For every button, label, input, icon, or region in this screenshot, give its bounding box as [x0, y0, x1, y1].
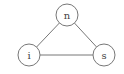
graph-diagram: nis [0, 0, 124, 74]
node-label: n [64, 10, 71, 21]
edge-n-i [37, 23, 60, 47]
node-label: s [101, 50, 106, 61]
edges [37, 23, 97, 55]
node-n: n [56, 4, 78, 26]
node-i: i [18, 44, 40, 66]
nodes: nis [18, 4, 115, 66]
node-label: i [27, 50, 30, 61]
node-s: s [93, 44, 115, 66]
edge-n-s [74, 23, 96, 47]
